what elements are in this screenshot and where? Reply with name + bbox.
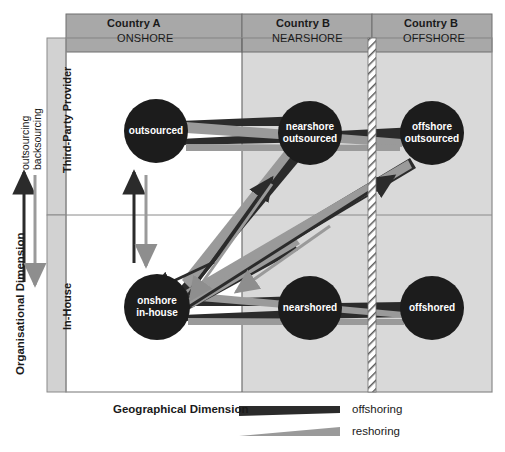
legend-wedges (239, 406, 340, 436)
node-onshore-in-house[interactable] (124, 274, 190, 340)
node-offshore-outsourced[interactable] (400, 101, 464, 165)
header-shore-nearshore: NEARSHORE (272, 32, 343, 44)
node-outsourced[interactable] (124, 99, 188, 163)
geographical-dimension-label: Geographical Dimension (113, 403, 248, 415)
country-b-internal-border (368, 38, 376, 392)
legend-label-reshoring: reshoring (352, 425, 400, 437)
header-shore-onshore: ONSHORE (117, 32, 173, 44)
legend-wedge-offshoring (239, 406, 340, 416)
header-country-nearshore: Country B (276, 17, 330, 29)
legend-wedge-reshoring (239, 427, 340, 436)
node-nearshore-outsourced[interactable] (278, 101, 342, 165)
header-country-offshore: Country B (404, 17, 458, 29)
node-nearshored[interactable] (278, 276, 342, 340)
legend-label-offshoring: offshoring (352, 403, 402, 415)
header-country-onshore: Country A (107, 17, 161, 29)
diagram-root: Country A ONSHORE Country B NEARSHORE Co… (0, 0, 505, 452)
node-offshored[interactable] (400, 276, 464, 340)
diagram-canvas (0, 0, 505, 452)
header-shore-offshore: OFFSHORE (403, 32, 465, 44)
